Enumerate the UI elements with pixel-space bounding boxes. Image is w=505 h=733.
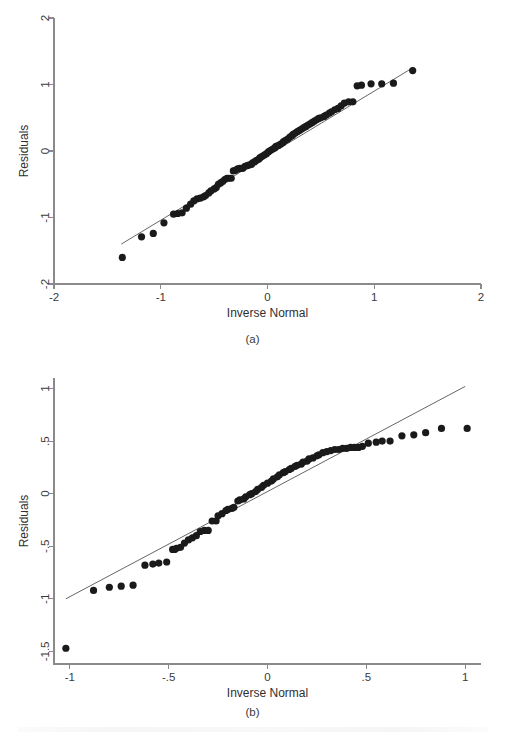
data-point — [129, 582, 136, 589]
y-tick-label: 2 — [39, 15, 51, 21]
y-tick-label: -1 — [39, 212, 51, 222]
data-point — [230, 504, 237, 511]
qq-plot-a-canvas: -2-1012-2-1012Inverse NormalResiduals — [0, 0, 505, 355]
y-tick-label: -.5 — [39, 540, 51, 553]
data-point — [141, 562, 148, 569]
data-point — [155, 559, 162, 566]
y-tick-label: -1 — [39, 594, 51, 604]
data-point — [378, 80, 385, 87]
x-tick-label: .5 — [362, 671, 372, 683]
data-point — [365, 440, 372, 447]
qq-plot-panel-b: -1.5-1-.50.51-1-.50.51Inverse NormalResi… — [0, 355, 505, 715]
data-point — [119, 254, 126, 261]
plot-axes — [54, 378, 481, 664]
data-point — [422, 429, 429, 436]
data-point — [228, 175, 235, 182]
y-tick-label: 0 — [39, 148, 51, 154]
data-point — [160, 219, 167, 226]
data-point — [349, 98, 356, 105]
x-tick-label: 1 — [462, 671, 468, 683]
x-tick-label: -.5 — [162, 671, 175, 683]
panel-a-caption: (a) — [0, 333, 505, 345]
x-tick-label: 0 — [264, 671, 270, 683]
data-point — [118, 583, 125, 590]
reference-line — [66, 386, 465, 598]
data-point-series — [119, 67, 417, 261]
y-axis-title: Residuals — [17, 495, 31, 548]
data-point — [367, 80, 374, 87]
x-tick-label: 2 — [478, 291, 484, 303]
data-point — [90, 587, 97, 594]
data-point-series — [62, 425, 471, 652]
data-point — [138, 233, 145, 240]
data-point — [409, 67, 416, 74]
x-axis-title: Inverse Normal — [227, 306, 308, 320]
data-point — [358, 82, 365, 89]
x-tick-label: -2 — [49, 291, 59, 303]
data-point — [386, 437, 393, 444]
data-point — [464, 425, 471, 432]
page-bottom-artifact — [18, 727, 488, 732]
qq-plot-b-canvas: -1.5-1-.50.51-1-.50.51Inverse NormalResi… — [0, 355, 505, 715]
x-axis-title: Inverse Normal — [227, 686, 308, 700]
data-point — [163, 558, 170, 565]
data-point — [410, 431, 417, 438]
x-tick-label: 1 — [371, 291, 377, 303]
y-tick-label: 1 — [39, 385, 51, 391]
data-point — [390, 80, 397, 87]
y-tick-label: .5 — [39, 436, 51, 446]
y-tick-label: -2 — [39, 279, 51, 289]
data-point — [106, 584, 113, 591]
x-tick-label: -1 — [65, 671, 75, 683]
x-tick-label: 0 — [264, 291, 270, 303]
qq-plot-panel-a: -2-1012-2-1012Inverse NormalResiduals — [0, 0, 505, 355]
data-point — [62, 645, 69, 652]
y-tick-label: 1 — [39, 81, 51, 87]
data-point — [205, 527, 212, 534]
data-point — [379, 437, 386, 444]
y-tick-label: -1.5 — [39, 641, 51, 661]
data-point — [398, 432, 405, 439]
data-point — [438, 425, 445, 432]
y-axis-title: Residuals — [17, 125, 31, 178]
data-point — [150, 230, 157, 237]
y-tick-label: 0 — [39, 490, 51, 496]
panel-b-caption: (b) — [0, 706, 505, 718]
x-tick-label: -1 — [156, 291, 166, 303]
